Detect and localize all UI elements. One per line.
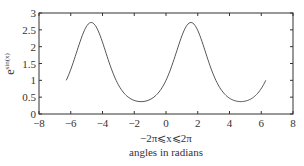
axes-box: [39, 13, 293, 114]
plot-area: −8−6−4−202468 00.511.522.53: [22, 7, 296, 129]
x-tick-label: 4: [227, 117, 233, 129]
y-tick-label: 1: [31, 74, 37, 86]
x-axis-ticks: −8−6−4−202468: [33, 13, 296, 129]
y-tick-label: 2.5: [22, 24, 36, 36]
y-axis-ticks: 00.511.522.53: [22, 7, 293, 120]
svg-text:esin(x): esin(x): [3, 53, 17, 75]
y-axis-label-exponent: sin(x): [3, 53, 11, 70]
x-tick-label: 8: [290, 117, 296, 129]
y-tick-label: 1.5: [22, 58, 36, 70]
x-axis-label-line1: −2π⩽x⩽2π: [140, 132, 192, 144]
data-line: [66, 22, 266, 101]
x-tick-label: −2: [128, 117, 140, 129]
y-tick-label: 0: [31, 108, 37, 120]
x-tick-label: 6: [259, 117, 265, 129]
y-axis-label: esin(x): [3, 53, 17, 75]
y-tick-label: 0.5: [22, 91, 36, 103]
x-tick-label: −4: [97, 117, 109, 129]
chart: −8−6−4−202468 00.511.522.53 −2π⩽x⩽2π ang…: [0, 0, 304, 166]
x-tick-label: 2: [195, 117, 201, 129]
y-tick-label: 3: [31, 7, 37, 19]
x-tick-label: −6: [65, 117, 77, 129]
y-tick-label: 2: [31, 41, 37, 53]
x-axis-label-line2: angles in radians: [129, 146, 203, 158]
x-tick-label: 0: [163, 117, 169, 129]
